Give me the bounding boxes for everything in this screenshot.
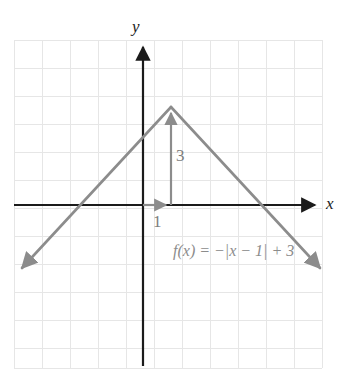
function-equation-label: f(x) = −|x − 1| + 3 (173, 243, 294, 259)
horizontal-measure-label: 1 (153, 213, 162, 230)
graph-canvas (0, 0, 348, 378)
x-axis-label: x (326, 195, 334, 212)
vertical-measure-label: 3 (176, 147, 185, 164)
curve-left-branch (22, 107, 171, 268)
graph-figure: y x 3 1 f(x) = −|x − 1| + 3 (0, 0, 348, 378)
y-axis-label: y (132, 18, 140, 35)
